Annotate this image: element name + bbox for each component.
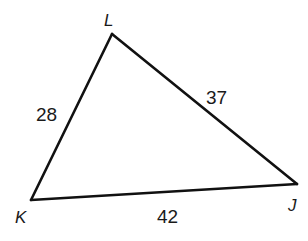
side-lj	[112, 34, 297, 184]
side-length-kl: 28	[36, 104, 57, 125]
side-length-lj: 37	[206, 87, 227, 108]
side-kj	[31, 184, 297, 200]
side-length-kj: 42	[157, 206, 178, 227]
triangle-diagram: L K J 28 37 42	[0, 0, 308, 241]
vertex-label-l: L	[104, 11, 113, 30]
vertex-label-k: K	[15, 208, 27, 227]
vertex-label-j: J	[287, 196, 297, 215]
